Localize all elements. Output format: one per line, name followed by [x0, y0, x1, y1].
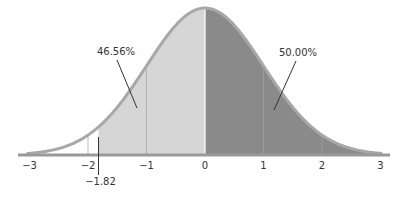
x-tick-label: −3	[22, 160, 37, 171]
x-tick-label: 0	[202, 160, 208, 171]
left-area-label: 46.56%	[97, 46, 135, 57]
right-area-label: 50.00%	[279, 47, 317, 58]
x-tick-label: 2	[319, 160, 325, 171]
right-shaded-region	[205, 8, 381, 155]
x-tick-label: −1	[139, 160, 154, 171]
x-tick-label: 3	[377, 160, 383, 171]
left-shaded-region	[99, 8, 205, 155]
marker-label: −1.82	[85, 176, 116, 187]
x-tick-label: −2	[81, 160, 96, 171]
x-tick-label: 1	[260, 160, 266, 171]
x-axis-ticks: −3−2−10123	[22, 160, 384, 171]
normal-distribution-chart: −3−2−10123 −1.82 46.56%50.00%	[0, 0, 408, 200]
